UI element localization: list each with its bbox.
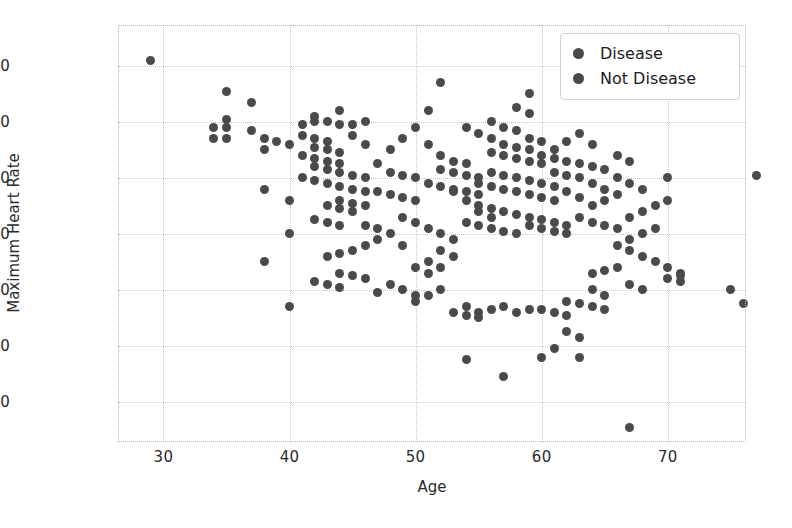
data-point bbox=[310, 176, 319, 185]
legend-marker-icon bbox=[573, 73, 584, 84]
data-point bbox=[550, 227, 559, 236]
x-tick-label: 30 bbox=[154, 448, 174, 466]
data-point bbox=[335, 148, 344, 157]
data-point bbox=[562, 311, 571, 320]
data-point bbox=[285, 302, 294, 311]
data-point bbox=[537, 159, 546, 168]
data-point bbox=[487, 148, 496, 157]
data-point bbox=[310, 112, 319, 121]
data-point bbox=[209, 123, 218, 132]
data-point bbox=[222, 134, 231, 143]
x-tick-label: 70 bbox=[658, 448, 678, 466]
data-point bbox=[348, 171, 357, 180]
data-point bbox=[663, 173, 672, 182]
data-point bbox=[361, 187, 370, 196]
data-point bbox=[512, 229, 521, 238]
data-point bbox=[335, 249, 344, 258]
data-point bbox=[462, 171, 471, 180]
data-point bbox=[550, 344, 559, 353]
data-point bbox=[550, 308, 559, 317]
data-point bbox=[525, 89, 534, 98]
data-point bbox=[525, 157, 534, 166]
data-point bbox=[348, 185, 357, 194]
data-point bbox=[462, 302, 471, 311]
data-point bbox=[361, 173, 370, 182]
data-point bbox=[398, 193, 407, 202]
data-point bbox=[209, 134, 218, 143]
x-tick-label: 40 bbox=[280, 448, 300, 466]
data-point bbox=[386, 190, 395, 199]
data-point bbox=[411, 218, 420, 227]
data-point bbox=[499, 302, 508, 311]
data-point bbox=[386, 229, 395, 238]
data-point bbox=[613, 173, 622, 182]
data-point bbox=[638, 207, 647, 216]
data-point bbox=[537, 305, 546, 314]
data-point bbox=[638, 252, 647, 261]
data-point bbox=[600, 291, 609, 300]
data-point bbox=[323, 145, 332, 154]
data-point bbox=[575, 213, 584, 222]
data-point bbox=[323, 165, 332, 174]
data-point bbox=[625, 423, 634, 432]
data-point bbox=[613, 263, 622, 272]
data-point bbox=[474, 221, 483, 230]
gridline-horizontal bbox=[118, 290, 746, 291]
data-point bbox=[436, 263, 445, 272]
data-point bbox=[575, 299, 584, 308]
data-point bbox=[361, 140, 370, 149]
data-point bbox=[436, 229, 445, 238]
data-point bbox=[588, 140, 597, 149]
data-point bbox=[550, 154, 559, 163]
data-point bbox=[436, 246, 445, 255]
data-point bbox=[550, 196, 559, 205]
data-point bbox=[449, 168, 458, 177]
legend-item[interactable]: Disease bbox=[573, 41, 729, 66]
data-point bbox=[272, 137, 281, 146]
data-point bbox=[512, 103, 521, 112]
data-point bbox=[348, 246, 357, 255]
data-point bbox=[424, 179, 433, 188]
data-point bbox=[537, 353, 546, 362]
data-point bbox=[575, 333, 584, 342]
y-tick-label: 180 bbox=[0, 113, 10, 131]
data-point bbox=[373, 159, 382, 168]
data-point bbox=[348, 120, 357, 129]
data-point bbox=[335, 106, 344, 115]
data-point bbox=[323, 201, 332, 210]
data-point bbox=[373, 224, 382, 233]
data-point bbox=[361, 201, 370, 210]
data-point bbox=[588, 285, 597, 294]
data-point bbox=[550, 218, 559, 227]
data-point bbox=[588, 179, 597, 188]
data-point bbox=[512, 187, 521, 196]
data-point bbox=[310, 215, 319, 224]
data-point bbox=[424, 140, 433, 149]
gridline-horizontal bbox=[118, 234, 746, 235]
data-point bbox=[411, 173, 420, 182]
y-axis-label: Maximum Heart Rate bbox=[5, 153, 23, 313]
data-point bbox=[449, 235, 458, 244]
data-point bbox=[361, 274, 370, 283]
legend-item[interactable]: Not Disease bbox=[573, 66, 729, 91]
data-point bbox=[600, 185, 609, 194]
data-point bbox=[651, 224, 660, 233]
data-point bbox=[499, 151, 508, 160]
data-point bbox=[499, 372, 508, 381]
data-point bbox=[285, 229, 294, 238]
data-point bbox=[398, 134, 407, 143]
data-point bbox=[398, 285, 407, 294]
data-point bbox=[525, 145, 534, 154]
data-point bbox=[260, 134, 269, 143]
data-point bbox=[462, 159, 471, 168]
legend[interactable]: DiseaseNot Disease bbox=[560, 33, 740, 100]
data-point bbox=[449, 157, 458, 166]
data-point bbox=[474, 313, 483, 322]
data-point bbox=[411, 196, 420, 205]
data-point bbox=[562, 297, 571, 306]
data-point bbox=[323, 218, 332, 227]
data-point bbox=[525, 109, 534, 118]
data-point bbox=[651, 201, 660, 210]
data-point bbox=[663, 274, 672, 283]
data-point bbox=[663, 196, 672, 205]
